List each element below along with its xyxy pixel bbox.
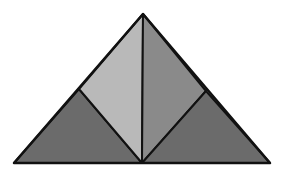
triangle-diagram	[0, 0, 287, 177]
